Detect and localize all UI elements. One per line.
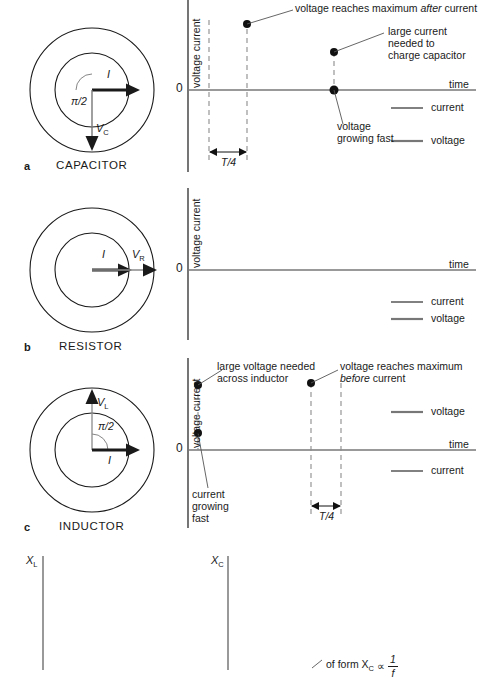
leader-voltage-growing xyxy=(334,90,343,124)
annotation-line: voltage xyxy=(337,120,394,132)
graph-b-zero-label: 0 xyxy=(176,262,183,276)
phasor-diagram-a xyxy=(0,0,180,180)
current-arrow-head xyxy=(126,444,140,457)
graph-a-period-label: T/4 xyxy=(221,156,236,168)
annotation-voltage-max-after-current: voltage reaches maximum after current xyxy=(295,2,477,14)
phasor-diagram-b xyxy=(0,180,180,358)
annotation-line: voltage reaches maximum xyxy=(340,360,463,372)
annotation-voltage-growing-fast: voltage growing fast xyxy=(337,120,394,144)
t4-arrow-right xyxy=(239,148,247,156)
graph-a-zero-label: 0 xyxy=(176,82,183,96)
annotation-line: fast xyxy=(192,512,229,524)
graph-b xyxy=(180,180,483,358)
angle-arc-icon xyxy=(92,434,108,450)
phasor-c-voltage-label: VL xyxy=(97,396,109,412)
annotation-line: growing fast xyxy=(337,132,394,144)
leader-voltage-max xyxy=(247,10,293,24)
leader-large-current xyxy=(334,33,384,52)
phasor-a-voltage-label: VC xyxy=(96,122,109,138)
legend-a-voltage-label: voltage xyxy=(431,134,465,146)
phasor-b-voltage-label: VR xyxy=(132,248,145,264)
phasor-c-current-label: I xyxy=(108,454,111,467)
annotation-line: current xyxy=(192,488,229,500)
phasor-diagram-c xyxy=(0,358,180,540)
panel-c: VL I π/2 c INDUCTOR voltage current 0 ti… xyxy=(0,358,483,540)
t4-arrow-left xyxy=(209,148,217,156)
legend-b-voltage-label: voltage xyxy=(431,312,465,324)
phasor-a-current-label: I xyxy=(107,68,110,81)
panel-a: I VC π/2 a CAPACITOR voltage current 0 xyxy=(0,0,483,180)
legend-c-voltage-label: voltage xyxy=(431,405,465,417)
formula-annotation: of form XC ∝ 1 f xyxy=(326,654,398,678)
annotation-line: before current xyxy=(340,372,463,384)
xc-axis-label: XC xyxy=(211,554,224,570)
panel-b-tag: b xyxy=(24,341,31,354)
formula-fraction: 1 f xyxy=(388,654,398,678)
panel-c-component-label: INDUCTOR xyxy=(59,520,124,533)
fraction-numerator: 1 xyxy=(388,654,398,667)
voltage-arrow-head xyxy=(86,136,99,151)
phasor-a-angle-label: π/2 xyxy=(71,95,87,107)
panel-b-component-label: RESISTOR xyxy=(59,340,122,353)
panel-b: I VR b RESISTOR voltage current 0 time c… xyxy=(0,180,483,358)
current-arrow-head xyxy=(126,84,140,97)
proportional-icon: ∝ xyxy=(377,660,385,672)
annotation-line: growing xyxy=(192,500,229,512)
graph-a-ylabel: voltage current xyxy=(190,19,202,88)
annotation-line: large voltage needed xyxy=(217,360,315,372)
graph-b-ylabel: voltage current xyxy=(190,199,202,268)
graph-b-time-label: time xyxy=(449,258,469,270)
panel-c-tag: c xyxy=(24,521,30,534)
annotation-voltage-max-before-current: voltage reaches maximum before current xyxy=(340,360,463,384)
graph-c-ylabel: voltage current xyxy=(190,379,202,448)
graph-c-zero-label: 0 xyxy=(176,442,183,456)
t4-arrow-right xyxy=(333,502,341,510)
phasor-c-angle-label: π/2 xyxy=(98,420,114,432)
bottom-section: XL XC of form XC ∝ 1 f xyxy=(0,540,483,670)
annotation-large-voltage-needed: large voltage needed across inductor xyxy=(217,360,315,384)
panel-a-tag: a xyxy=(24,160,30,173)
annotation-line: needed to xyxy=(388,37,466,49)
legend-b-current-label: current xyxy=(431,295,464,307)
formula-prefix: of form XC xyxy=(326,658,374,674)
annotation-line: across inductor xyxy=(217,372,315,384)
annotation-line: charge capacitor xyxy=(388,49,466,61)
graph-c-period-label: T/4 xyxy=(319,510,334,522)
voltage-arrow-head xyxy=(143,264,157,277)
legend-a-current-label: current xyxy=(431,101,464,113)
bottom-axes xyxy=(0,540,483,670)
annotation-large-current-needed: large current needed to charge capacitor xyxy=(388,25,466,61)
panel-a-component-label: CAPACITOR xyxy=(56,159,127,172)
annotation-line: large current xyxy=(388,25,466,37)
t4-arrow-left xyxy=(311,502,319,510)
phasor-b-current-label: I xyxy=(102,248,105,261)
graph-a-time-label: time xyxy=(449,78,469,90)
fraction-denominator: f xyxy=(388,667,398,679)
formula-leader xyxy=(312,660,322,668)
legend-c-current-label: current xyxy=(431,464,464,476)
xl-axis-label: XL xyxy=(26,554,38,570)
annotation-current-growing-fast: current growing fast xyxy=(192,488,229,524)
graph-c-time-label: time xyxy=(449,438,469,450)
angle-arc-icon xyxy=(76,74,92,90)
